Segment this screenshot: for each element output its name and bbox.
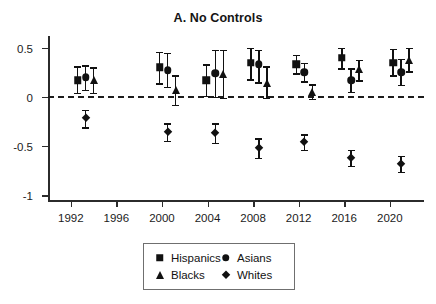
error-bar-cap-lower	[348, 92, 355, 93]
square-marker	[389, 59, 397, 67]
triangle-marker	[355, 65, 363, 73]
error-bar-cap-lower	[398, 172, 405, 173]
error-bar-cap-upper	[172, 75, 179, 76]
error-bar-cap-upper	[164, 53, 171, 54]
circle-marker-icon	[219, 251, 232, 264]
square-marker	[338, 54, 346, 62]
circle-marker	[82, 73, 90, 81]
x-tick	[116, 201, 118, 207]
circle-marker	[164, 67, 172, 75]
x-tick	[253, 201, 255, 207]
error-bar-cap-upper	[212, 50, 219, 51]
x-tick	[162, 201, 164, 207]
legend-row: Hispanics Asians	[153, 249, 285, 266]
error-bar-cap-upper	[212, 123, 219, 124]
error-bar-cap-upper	[309, 84, 316, 85]
legend-label: Asians	[237, 252, 272, 264]
triangle-marker	[308, 88, 316, 96]
error-bar-cap-upper	[90, 67, 97, 68]
square-marker	[74, 76, 82, 84]
x-tick-label: 2020	[377, 212, 403, 224]
x-tick	[71, 201, 73, 207]
square-marker	[156, 64, 164, 72]
error-bar-cap-lower	[90, 93, 97, 94]
y-tick-label: -1	[23, 190, 33, 202]
x-tick	[299, 201, 301, 207]
error-bar-cap-upper	[156, 52, 163, 53]
chart-legend: Hispanics Asians Blacks Whites	[143, 243, 295, 290]
error-bar-cap-upper	[247, 48, 254, 49]
y-tick-label: 0.5	[17, 43, 33, 55]
circle-marker	[347, 76, 355, 84]
y-axis-line	[48, 36, 50, 200]
triangle-marker	[405, 56, 413, 64]
triangle-marker	[263, 79, 271, 87]
legend-item-blacks: Blacks	[153, 268, 219, 281]
legend-item-asians: Asians	[219, 251, 285, 264]
y-tick: -1	[42, 195, 48, 197]
error-bar-cap-upper	[348, 68, 355, 69]
y-tick-label: 0	[27, 92, 33, 104]
square-marker	[293, 61, 301, 69]
error-bar-cap-upper	[220, 50, 227, 51]
error-bar-cap-lower	[172, 105, 179, 106]
square-marker	[203, 76, 211, 84]
diamond-marker-icon	[219, 268, 232, 281]
x-tick	[390, 201, 392, 207]
error-bar-cap-upper	[164, 123, 171, 124]
error-bar-cap-upper	[338, 48, 345, 49]
square-marker-icon	[153, 251, 166, 264]
x-axis-line	[48, 200, 424, 202]
diamond-marker	[81, 114, 90, 123]
legend-item-hispanics: Hispanics	[153, 251, 219, 264]
error-bar-cap-lower	[356, 80, 363, 81]
error-bar-cap-upper	[390, 49, 397, 50]
y-tick: 0.5	[42, 48, 48, 50]
diamond-marker	[163, 128, 172, 137]
x-tick-label: 1996	[104, 212, 130, 224]
diamond-marker	[347, 153, 356, 162]
error-bar-cap-lower	[82, 90, 89, 91]
diamond-marker	[397, 159, 406, 168]
triangle-marker	[90, 76, 98, 84]
error-bar-cap-upper	[203, 64, 210, 65]
error-bar-cap-upper	[74, 66, 81, 67]
triangle-marker-icon	[153, 268, 166, 281]
x-tick-label: 1992	[58, 212, 84, 224]
y-tick-label: -0.5	[13, 141, 33, 153]
diamond-marker	[254, 144, 263, 153]
error-bar-cap-upper	[398, 156, 405, 157]
error-bar-cap-lower	[220, 98, 227, 99]
error-bar-cap-lower	[406, 71, 413, 72]
circle-marker	[212, 70, 220, 78]
error-bar-cap-lower	[203, 96, 210, 97]
error-bar-cap-lower	[293, 73, 300, 74]
error-bar-cap-upper	[356, 60, 363, 61]
error-bar-cap-upper	[301, 134, 308, 135]
error-bar-cap-upper	[263, 66, 270, 67]
plot-area: 0.50-0.5-1 19921996200020042008201220162…	[48, 36, 424, 200]
error-bar-cap-lower	[212, 97, 219, 98]
chart-title: A. No Controls	[0, 11, 436, 25]
error-bar-cap-lower	[212, 143, 219, 144]
circle-marker	[397, 69, 405, 77]
error-bar-cap-lower	[398, 85, 405, 86]
x-tick	[208, 201, 210, 207]
error-bar-cap-upper	[406, 48, 413, 49]
error-bar-cap-upper	[255, 138, 262, 139]
error-bar-cap-upper	[82, 110, 89, 111]
error-bar-cap-lower	[74, 93, 81, 94]
zero-line	[48, 96, 424, 98]
circle-marker	[255, 61, 263, 69]
x-tick	[344, 201, 346, 207]
error-bar-cap-lower	[164, 87, 171, 88]
error-bar-cap-lower	[255, 82, 262, 83]
y-tick: -0.5	[42, 146, 48, 148]
x-tick-label: 2000	[149, 212, 175, 224]
error-bar-cap-lower	[156, 83, 163, 84]
x-tick-label: 2004	[195, 212, 221, 224]
legend-item-whites: Whites	[219, 268, 285, 281]
error-bar-cap-lower	[82, 127, 89, 128]
figure-panel: A. No Controls 0.50-0.5-1 19921996200020…	[0, 0, 436, 304]
error-bar-cap-lower	[309, 99, 316, 100]
